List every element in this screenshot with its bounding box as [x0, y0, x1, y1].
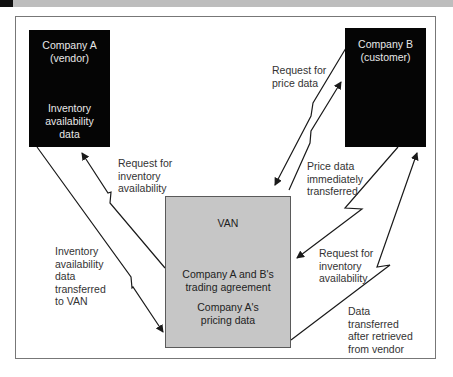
van-content-2a: Company A's — [166, 301, 290, 314]
label-line: Data — [348, 305, 413, 318]
label-data-after-vendor: Data transferred after retrieved from ve… — [348, 305, 413, 355]
company-a-content-3: data — [29, 128, 110, 141]
label-line: data — [55, 270, 106, 283]
label-line: price data — [272, 77, 326, 90]
label-line: Request for — [118, 157, 172, 170]
van-content-2b: pricing data — [166, 314, 290, 327]
van-title: VAN — [166, 217, 290, 230]
label-line: to VAN — [55, 295, 106, 308]
label-line: transferred — [348, 318, 413, 331]
label-line: Inventory — [55, 245, 106, 258]
label-request-price: Request for price data — [272, 64, 326, 89]
van-content-1b: trading agreement — [166, 281, 290, 294]
label-line: inventory — [319, 260, 373, 273]
label-line: availability — [55, 258, 106, 271]
label-line: Price data — [307, 160, 363, 173]
label-price-transferred: Price data immediately transferred — [307, 160, 363, 198]
label-line: Request for — [319, 247, 373, 260]
label-line: transferred — [307, 185, 363, 198]
label-line: after retrieved — [348, 330, 413, 343]
label-line: availability — [319, 272, 373, 285]
label-line: Request for — [272, 64, 326, 77]
label-line: transferred — [55, 283, 106, 296]
company-a-content-1: Inventory — [29, 102, 110, 115]
company-a-subtitle: (vendor) — [29, 52, 110, 65]
label-line: inventory — [118, 170, 172, 183]
van-content-1a: Company A and B's — [166, 268, 290, 281]
company-b-title: Company B — [345, 38, 426, 51]
van-box: VAN Company A and B's trading agreement … — [165, 196, 291, 348]
company-b-box: Company B (customer) — [345, 28, 426, 147]
label-line: from vendor — [348, 343, 413, 356]
label-inventory-to-van: Inventory availability data transferred … — [55, 245, 106, 308]
company-a-content-2: availability — [29, 115, 110, 128]
company-a-title: Company A — [29, 39, 110, 52]
company-a-box: Company A (vendor) Inventory availabilit… — [29, 30, 110, 147]
company-b-subtitle: (customer) — [345, 51, 426, 64]
label-line: immediately — [307, 173, 363, 186]
label-request-inventory-right: Request for inventory availability — [319, 247, 373, 285]
label-request-inventory-left: Request for inventory availability — [118, 157, 172, 195]
label-line: availability — [118, 182, 172, 195]
